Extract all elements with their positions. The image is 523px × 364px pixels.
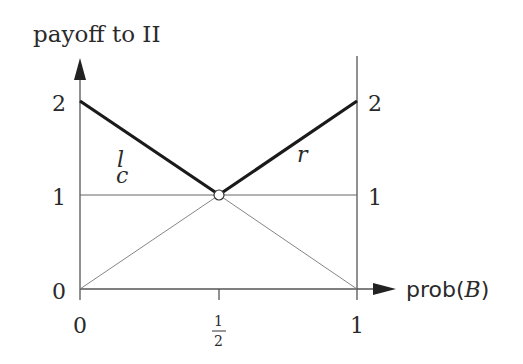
y-axis-label: payoff to II [33, 21, 161, 47]
series-r-bold-line [223, 101, 357, 192]
y-tick-left-2: 2 [52, 91, 66, 116]
intersection-point [214, 190, 224, 200]
label-r: r [297, 142, 309, 167]
y-tick-left-1: 1 [52, 185, 66, 210]
x-tick-1: 1 [350, 313, 364, 338]
y-tick-right-2: 2 [368, 91, 382, 116]
x-tick-0: 0 [73, 313, 87, 338]
x-tick-half-numerator: 1 [214, 313, 223, 329]
x-axis-label: prob(B) [406, 277, 489, 302]
y-tick-left-0: 0 [52, 279, 66, 304]
x-tick-half-denominator: 2 [214, 333, 223, 349]
series-l-thin-line [219, 195, 357, 289]
y-tick-right-1: 1 [368, 185, 382, 210]
series-r-thin-line [80, 195, 219, 289]
payoff-chart: payoff to II l c r 2 1 0 2 1 0 1 2 1 pro… [0, 0, 523, 364]
x-axis-arrow-icon [373, 283, 396, 295]
series-l-bold-line [80, 101, 215, 192]
label-c: c [116, 163, 128, 188]
y-axis-arrow-icon [74, 58, 86, 80]
